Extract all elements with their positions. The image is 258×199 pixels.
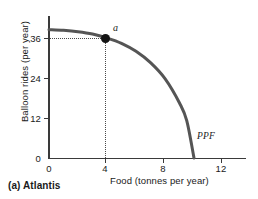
guide-line-vertical [105,39,106,158]
ppf-chart-figure: 36 24 12 0 0 4 8 12 Balloon rides (per y… [0,0,258,199]
ppf-curve-svg [0,0,258,199]
data-point-a-label: a [113,22,118,33]
ppf-series-label: PPF [197,131,215,141]
ppf-curve-path [49,30,194,158]
data-point-a-marker [101,34,110,43]
guide-line-horizontal [50,38,105,39]
figure-caption: (a) Atlantis [8,180,61,191]
